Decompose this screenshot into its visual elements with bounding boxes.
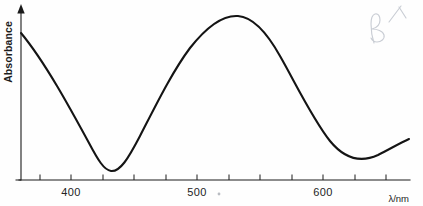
handwritten-stroke-secondary-icon — [399, 7, 406, 18]
absorbance-curve — [21, 16, 409, 171]
x-tick-label-500: 500 — [187, 186, 206, 198]
x-axis-title: λ/nm — [388, 193, 409, 204]
handwritten-annotation — [371, 6, 406, 43]
y-axis-title: Absorbance — [2, 21, 14, 83]
x-tick-label-600: 600 — [313, 186, 332, 198]
handwritten-letter-b-icon — [371, 14, 384, 43]
y-axis-arrow-icon — [17, 4, 24, 14]
x-axis-ticks — [40, 175, 386, 181]
spectrum-figure: 400 500 600 λ/nm Absorbance — [0, 0, 423, 206]
plot-canvas: 400 500 600 λ/nm Absorbance — [0, 0, 423, 206]
scan-artifact-speck — [218, 193, 221, 196]
x-tick-label-400: 400 — [61, 186, 80, 198]
handwritten-stroke-icon — [389, 6, 401, 22]
